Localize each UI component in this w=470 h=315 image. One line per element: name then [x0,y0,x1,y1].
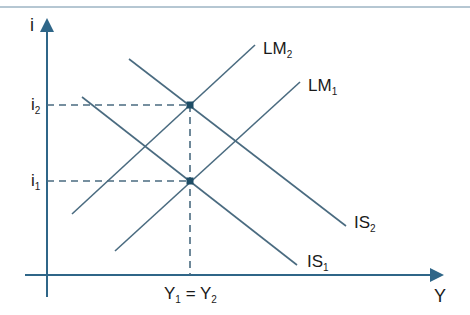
is2-label: IS2 [354,214,376,234]
y2-main: Y [200,284,211,303]
lm2-label-main: LM [263,39,287,58]
y1-sub: 1 [175,294,181,305]
equals-sign: = [186,284,196,303]
lm1-label-sub: 1 [332,86,338,97]
is1-label-sub: 1 [323,262,329,273]
is-lm-diagram [0,0,470,315]
x-axis-label: Y [434,287,446,305]
y-axis-label: i [30,16,34,34]
lm2-curve [72,45,255,214]
i2-label: i2 [31,96,40,116]
y-axis-label-text: i [30,15,34,35]
is2-label-sub: 2 [370,223,376,234]
lm1-label-main: LM [308,76,332,95]
is1-label: IS1 [307,253,329,273]
is1-label-main: IS [307,252,323,271]
y2-sub: 2 [211,294,217,305]
lm2-label-sub: 2 [287,49,293,60]
i1-label-sub: 1 [35,181,41,192]
x-axis-label-text: Y [434,286,446,306]
y-axis-arrow-icon [40,18,54,32]
lm1-curve [115,82,300,251]
x-axis-arrow-icon [430,268,444,282]
equilibrium-point-1 [187,178,194,185]
i1-label: i1 [31,172,40,192]
lm2-label: LM2 [263,40,292,60]
y1-main: Y [164,284,175,303]
i2-label-sub: 2 [35,105,41,116]
y-equality-label: Y1 = Y2 [164,285,217,305]
lm1-label: LM1 [308,77,337,97]
is2-label-main: IS [354,213,370,232]
equilibrium-point-2 [187,102,194,109]
